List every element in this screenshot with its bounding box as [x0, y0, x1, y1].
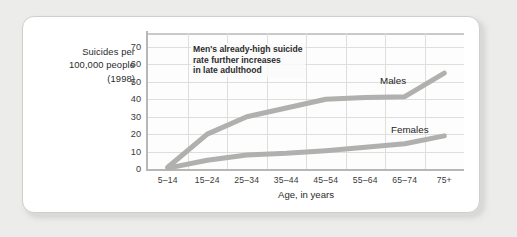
- gridline-x-1: [188, 33, 189, 169]
- x-tick-label-7: 75+: [421, 175, 467, 185]
- y-tick-label-40: 40: [119, 94, 141, 104]
- gridline-x-5: [346, 33, 347, 169]
- annotation-line-1: Men's already-high suicide: [193, 44, 303, 55]
- series-label-males: Males: [380, 75, 406, 86]
- y-axis-line: [146, 31, 148, 171]
- y-tick-label-30: 30: [119, 112, 141, 122]
- y-tick-label-60: 60: [119, 59, 141, 69]
- y-tick-label-70: 70: [119, 42, 141, 52]
- y-tick-label-20: 20: [119, 129, 141, 139]
- suicide-rate-line-chart: Suicides per 100,000 people (1998) 01020…: [23, 17, 481, 214]
- y-tick-label-50: 50: [119, 77, 141, 87]
- series-label-females: Females: [391, 124, 429, 135]
- x-axis-line: [146, 169, 464, 171]
- y-tick-label-0: 0: [119, 164, 141, 174]
- gridline-x-6: [385, 33, 386, 169]
- x-axis-title: Age, in years: [148, 189, 464, 200]
- gridline-x-4: [306, 33, 307, 169]
- y-tick-label-10: 10: [119, 147, 141, 157]
- male-rate-annotation: Men's already-high suicide rate further …: [191, 43, 305, 77]
- figure-card: Suicides per 100,000 people (1998) 01020…: [22, 16, 480, 213]
- annotation-line-2: rate further increases: [193, 55, 303, 66]
- annotation-line-3: in late adulthood: [193, 65, 303, 76]
- gridline-x-7: [425, 33, 426, 169]
